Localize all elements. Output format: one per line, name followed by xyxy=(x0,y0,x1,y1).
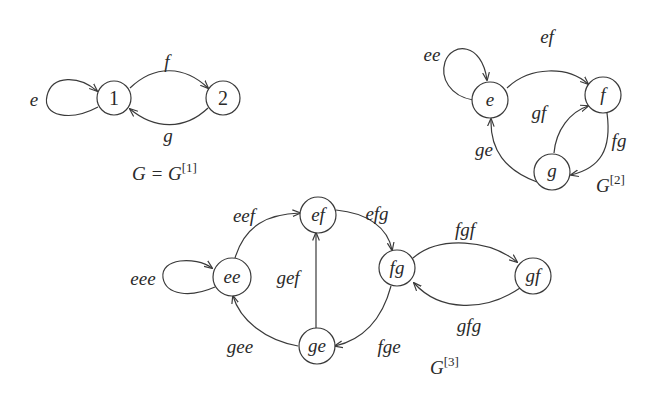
edge-e-label: e xyxy=(30,89,38,110)
node-ge-label: ge xyxy=(308,335,326,356)
node-2-label: 2 xyxy=(218,87,228,109)
edge-gfg-label: gfg xyxy=(457,315,481,336)
edge-e-loop xyxy=(46,80,98,116)
node-e-label: e xyxy=(486,89,494,110)
edge-gf-label: gf xyxy=(532,102,550,123)
edge-ef-label: ef xyxy=(540,26,556,47)
edge-fge-label: fge xyxy=(377,336,400,357)
edge-fg-label: fg xyxy=(612,130,627,151)
edge-g-label: g xyxy=(163,125,173,146)
edge-f-label: f xyxy=(164,51,172,72)
node-g-label: g xyxy=(547,160,557,181)
edge-eef-label: eef xyxy=(233,205,258,226)
node-1-label: 1 xyxy=(109,87,119,109)
edge-ge-label: ge xyxy=(475,139,493,160)
edge-fg xyxy=(571,113,608,175)
edge-ef xyxy=(507,71,588,88)
edge-eee-loop xyxy=(163,261,215,294)
edge-gee-label: gee xyxy=(227,336,253,357)
edge-fgf-label: fgf xyxy=(455,219,478,240)
graph-g3: ee ef fg ge gf eee eef efg gef gee fge f… xyxy=(130,197,551,378)
edge-gf xyxy=(554,106,588,153)
edge-ge xyxy=(491,119,537,182)
edge-eee-label: eee xyxy=(130,268,155,289)
edge-ee-label: ee xyxy=(424,44,441,65)
line-graph-diagram: 1 2 e f g G = G[1] e f g ee ef gf ge fg … xyxy=(0,0,660,394)
edge-g xyxy=(130,108,208,125)
caption-g2: G[2] xyxy=(596,172,625,196)
caption-g3: G[3] xyxy=(430,354,459,378)
edge-f xyxy=(130,71,208,88)
node-fg-label: fg xyxy=(390,257,405,278)
edge-gfg xyxy=(414,283,520,305)
caption-g1: G = G[1] xyxy=(132,160,197,184)
graph-g1: 1 2 e f g G = G[1] xyxy=(30,51,240,184)
node-ee-label: ee xyxy=(224,266,241,287)
edge-fgf xyxy=(413,243,517,262)
edge-gef-label: gef xyxy=(276,267,302,288)
edge-efg-label: efg xyxy=(365,203,388,224)
graph-g2: e f g ee ef gf ge fg G[2] xyxy=(424,26,627,196)
